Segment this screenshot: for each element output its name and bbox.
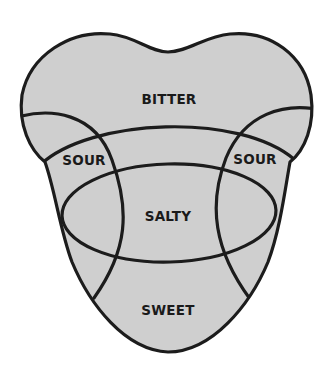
label-bitter: BITTER (142, 91, 197, 107)
label-salty: SALTY (145, 208, 192, 224)
label-sweet: SWEET (141, 302, 195, 318)
label-sour-right: SOUR (233, 151, 277, 167)
tongue-taste-map: BITTER SOUR SOUR SALTY SWEET (0, 0, 335, 374)
label-sour-left: SOUR (62, 152, 106, 168)
